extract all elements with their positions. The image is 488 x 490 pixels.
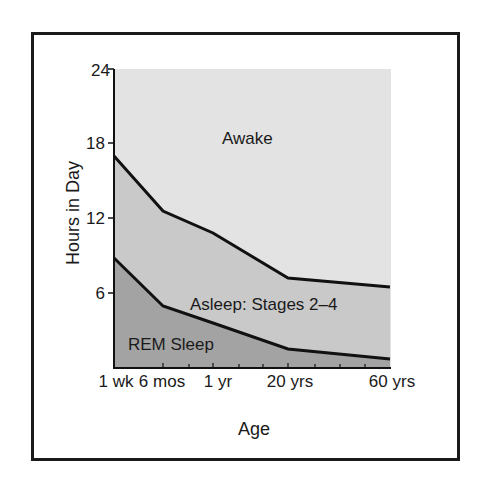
y-tick-label-18: 18 [86,134,105,153]
y-axis-title: Hours in Day [63,161,83,265]
awake-label: Awake [222,129,273,148]
rem-label: REM Sleep [128,335,214,354]
x-tick-label-1wk: 1 wk [99,372,134,391]
y-tick-label-6: 6 [96,284,105,303]
sleep-chart: 6 12 18 24 1 wk 6 mos 1 yr 20 yrs 60 yrs… [0,0,488,490]
x-tick-label-1yr: 1 yr [204,372,233,391]
x-axis-title: Age [238,419,270,439]
stages-label: Asleep: Stages 2–4 [190,295,337,314]
x-tick-label-60yrs: 60 yrs [369,372,415,391]
y-tick-label-24: 24 [91,61,110,80]
x-tick-label-6mos: 6 mos [139,372,185,391]
y-tick-label-12: 12 [86,209,105,228]
x-tick-label-20yrs: 20 yrs [267,372,313,391]
